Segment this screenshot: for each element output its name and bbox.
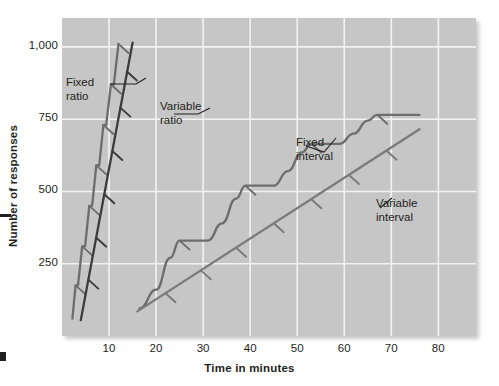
series-label-fixed-interval-line2: interval xyxy=(296,150,333,164)
x-tick-label-40: 40 xyxy=(230,342,270,354)
hatch-mark xyxy=(76,285,86,294)
hatch-mark xyxy=(180,241,190,250)
hatch-mark xyxy=(111,85,121,94)
hatch-mark xyxy=(166,293,176,302)
x-axis-title: Time in minutes xyxy=(0,362,499,374)
hatch-mark xyxy=(96,238,106,247)
series-label-variable-interval-line1: Variable xyxy=(376,197,417,211)
x-tick-label-20: 20 xyxy=(136,342,176,354)
y-axis-title: Number of responses xyxy=(7,106,19,266)
hatch-mark xyxy=(119,44,129,53)
series-label-variable-interval: Variable interval xyxy=(376,197,417,224)
series-label-fixed-interval-line1: Fixed xyxy=(296,136,333,150)
hatch-mark xyxy=(82,246,92,255)
series-label-fixed-interval: Fixed interval xyxy=(296,136,333,163)
series-label-variable-ratio-line2: ratio xyxy=(160,114,201,128)
hatch-mark xyxy=(120,108,130,117)
x-tick-label-80: 80 xyxy=(418,342,458,354)
series-label-fixed-ratio-line1: Fixed xyxy=(66,76,94,90)
x-tick-label-70: 70 xyxy=(371,342,411,354)
gridlines xyxy=(62,18,476,336)
hatch-mark xyxy=(96,165,106,174)
x-tick-label-10: 10 xyxy=(89,342,129,354)
plot-area xyxy=(62,18,476,336)
annotation-leader-lines xyxy=(110,78,392,208)
series-label-variable-ratio-line1: Variable xyxy=(160,100,201,114)
series-label-fixed-ratio: Fixed ratio xyxy=(66,76,94,103)
hatch-mark xyxy=(274,223,284,232)
hatch-mark xyxy=(201,270,211,279)
plot-canvas xyxy=(62,18,476,336)
x-tick-label-60: 60 xyxy=(324,342,364,354)
hatch-mark xyxy=(89,206,99,215)
hatch-mark xyxy=(349,175,359,184)
x-tick-label-50: 50 xyxy=(277,342,317,354)
hatch-mark xyxy=(311,199,321,208)
series-label-fixed-ratio-line2: ratio xyxy=(66,90,94,104)
hatch-mark xyxy=(127,72,137,81)
hatch-mark xyxy=(112,151,122,160)
series-label-variable-interval-line2: interval xyxy=(376,211,417,225)
reinforcement-schedules-chart: 1,000 750 500 250 Number of responses Fi… xyxy=(0,0,499,386)
x-tick-label-30: 30 xyxy=(183,342,223,354)
y-tick-label-1000: 1,000 xyxy=(6,39,58,51)
hatch-mark xyxy=(236,248,246,257)
series-label-variable-ratio: Variable ratio xyxy=(160,100,201,127)
hatch-mark xyxy=(88,280,98,289)
